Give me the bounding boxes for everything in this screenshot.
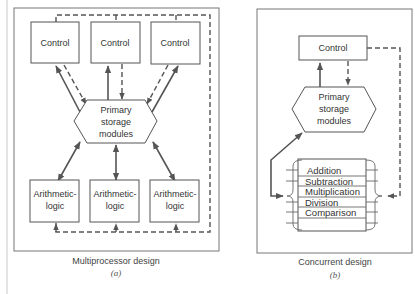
control-unit-b: Control xyxy=(299,36,367,60)
control-unit-label: Control xyxy=(100,38,129,48)
arrow-storage-functions xyxy=(271,133,302,196)
arrow-storage-to-control-3 xyxy=(152,66,178,112)
alu-label-line: Arithmetic- xyxy=(153,189,196,199)
control-unit-label: Control xyxy=(318,43,347,53)
storage-label-line: modules xyxy=(99,129,134,139)
control-unit-1: Control xyxy=(31,22,79,63)
function-multiplication: Multiplication xyxy=(305,186,360,197)
storage-label-line: storage xyxy=(319,104,349,114)
caption-b: Concurrent design xyxy=(298,257,372,267)
panel-concurrent: Control Primary storage modules Addition… xyxy=(257,9,412,280)
primary-storage-modules-b: Primary storage modules xyxy=(292,87,376,132)
sublabel-b: (b) xyxy=(330,270,341,280)
arithmetic-logic-unit-2: Arithmetic- logic xyxy=(90,180,139,222)
control-unit-label: Control xyxy=(160,38,189,48)
alu-label-line: logic xyxy=(106,201,125,211)
storage-label-line: Primary xyxy=(101,105,132,115)
architecture-diagram: Control Control Control Primary storage … xyxy=(0,0,415,294)
alu-label-line: Arithmetic- xyxy=(93,189,136,199)
function-comparison: Comparison xyxy=(305,207,356,218)
panel-multiprocessor: Control Control Control Primary storage … xyxy=(14,8,219,278)
right-brace xyxy=(366,160,382,230)
arrow-control-3-to-storage xyxy=(147,65,168,104)
storage-label-line: modules xyxy=(317,116,352,126)
arrow-control-1-to-storage xyxy=(64,65,86,104)
arithmetic-logic-unit-1: Arithmetic- logic xyxy=(30,180,79,222)
control-unit-label: Control xyxy=(40,38,69,48)
function-units-block: Addition Subtraction Multiplication Divi… xyxy=(298,159,366,231)
arithmetic-logic-unit-3: Arithmetic- logic xyxy=(150,180,199,222)
arrow-storage-alu-1 xyxy=(58,142,80,181)
arrow-storage-alu-3 xyxy=(153,142,175,181)
caption-a: Multiprocessor design xyxy=(72,256,160,266)
alu-label-line: Arithmetic- xyxy=(33,189,76,199)
storage-label-line: Primary xyxy=(319,92,350,102)
function-addition: Addition xyxy=(307,165,341,176)
control-unit-3: Control xyxy=(151,22,200,64)
sublabel-a: (a) xyxy=(111,268,122,278)
storage-label-line: storage xyxy=(101,117,131,127)
alu-label-line: logic xyxy=(46,201,65,211)
dashed-control-to-functions xyxy=(367,48,400,196)
alu-label-line: logic xyxy=(166,201,185,211)
control-unit-2: Control xyxy=(91,22,140,63)
primary-storage-modules-a: Primary storage modules xyxy=(74,100,157,143)
